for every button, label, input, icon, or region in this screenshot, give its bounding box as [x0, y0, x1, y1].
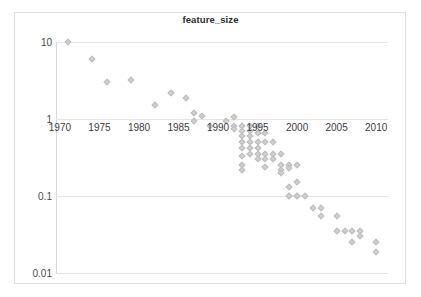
- x-tick-label: 1970: [49, 122, 71, 133]
- x-tick-label: 1980: [128, 122, 150, 133]
- x-tick-label: 1995: [246, 122, 268, 133]
- x-tick-label: 2010: [365, 122, 387, 133]
- x-axis-tick-labels: 197019751980198519901995200020052010: [0, 0, 421, 297]
- x-tick-label: 1985: [167, 122, 189, 133]
- chart-figure: feature_size 1010.10.01 1970197519801985…: [0, 0, 421, 297]
- x-tick-label: 1990: [207, 122, 229, 133]
- x-tick-label: 1975: [88, 122, 110, 133]
- x-tick-label: 2005: [325, 122, 347, 133]
- x-tick-label: 2000: [286, 122, 308, 133]
